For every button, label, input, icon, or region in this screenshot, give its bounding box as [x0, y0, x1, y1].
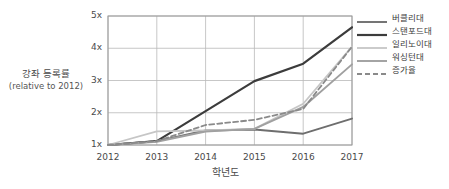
- legend-item-label: 증가율: [392, 63, 416, 75]
- y-axis-tick-label: 2x: [80, 107, 102, 117]
- gridlines: [108, 16, 352, 145]
- legend-item[interactable]: 버클리대: [357, 10, 447, 23]
- legend-item[interactable]: 일리노이대: [357, 36, 447, 49]
- y-axis-tick-label: 4x: [80, 42, 102, 52]
- x-axis-tick-label: 2012: [91, 152, 125, 162]
- x-axis-tick-label: 2017: [335, 152, 369, 162]
- legend-item[interactable]: 워싱턴대: [357, 49, 447, 62]
- legend-line-swatch: [357, 25, 387, 35]
- x-axis-tick-label: 2014: [189, 152, 223, 162]
- chart-legend: 버클리대스탠포드대일리노이대워싱턴대증가율: [357, 10, 447, 75]
- legend-line-swatch: [357, 51, 387, 61]
- legend-item[interactable]: 스탠포드대: [357, 23, 447, 36]
- legend-line-swatch: [357, 64, 387, 74]
- x-axis-tick-label: 2013: [140, 152, 174, 162]
- series-line: [108, 27, 352, 145]
- chart-figure: 강좌 등록률 (relative to 2012) 학년도 1x2x3x4x5x…: [0, 0, 449, 189]
- legend-item-label: 스탠포드대: [392, 24, 432, 36]
- x-axis-tick-label: 2015: [237, 152, 271, 162]
- legend-line-swatch: [357, 38, 387, 48]
- y-axis-tick-label: 1x: [80, 139, 102, 149]
- legend-item-label: 버클리대: [392, 11, 424, 23]
- series-lines: [108, 27, 352, 145]
- x-axis-tick-label: 2016: [286, 152, 320, 162]
- legend-item-label: 일리노이대: [392, 37, 432, 49]
- legend-item-label: 워싱턴대: [392, 50, 424, 62]
- y-axis-tick-label: 5x: [80, 10, 102, 20]
- series-line: [108, 64, 352, 145]
- legend-item[interactable]: 증가율: [357, 62, 447, 75]
- y-axis-tick-label: 3x: [80, 75, 102, 85]
- legend-line-swatch: [357, 12, 387, 22]
